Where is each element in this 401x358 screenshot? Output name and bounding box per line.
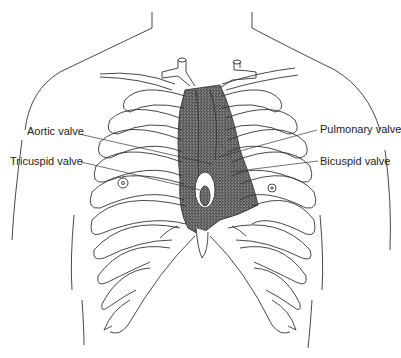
label-pulmonary-valve: Pulmonary valve bbox=[320, 123, 401, 135]
label-tricuspid-valve: Tricuspid valve bbox=[10, 155, 83, 167]
great-vessels bbox=[162, 58, 256, 88]
label-bicuspid-valve: Bicuspid valve bbox=[320, 155, 390, 167]
clavicles bbox=[100, 68, 298, 90]
heart bbox=[178, 85, 258, 235]
label-aortic-valve: Aortic valve bbox=[27, 125, 84, 137]
